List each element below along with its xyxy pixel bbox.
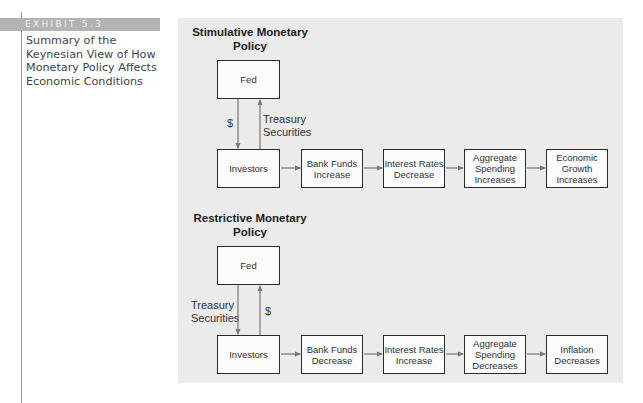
flow-arrows xyxy=(0,0,643,403)
